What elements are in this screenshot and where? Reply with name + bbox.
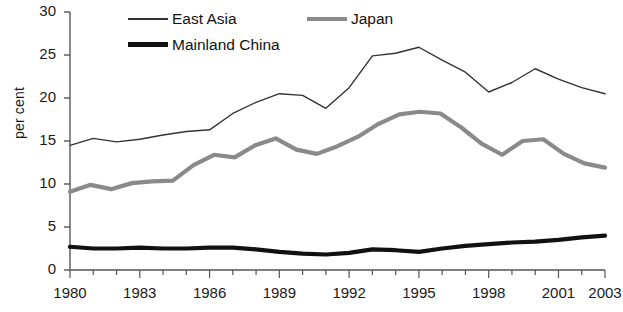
x-tick-label: 1983 <box>123 284 156 301</box>
x-tick-label: 2001 <box>542 284 575 301</box>
chart-series <box>70 47 605 254</box>
x-tick-label: 1992 <box>332 284 365 301</box>
series-line-0 <box>70 47 605 145</box>
legend-label-japan: Japan <box>351 11 393 27</box>
y-tick-label: 0 <box>22 260 56 277</box>
x-tick-label: 1998 <box>472 284 505 301</box>
legend-label-mainland-china: Mainland China <box>172 37 280 53</box>
series-line-2 <box>70 236 605 255</box>
chart-figure: per cent 302520151050 198019831986198919… <box>0 0 623 312</box>
legend-label-east-asia: East Asia <box>172 11 237 27</box>
legend-item-mainland-china: Mainland China <box>128 37 280 53</box>
y-tick-label: 25 <box>22 45 56 62</box>
x-tick-label: 1980 <box>53 284 86 301</box>
y-tick-label: 20 <box>22 88 56 105</box>
y-tick-label: 15 <box>22 131 56 148</box>
legend-item-east-asia: East Asia <box>128 11 237 27</box>
y-tick-label: 10 <box>22 174 56 191</box>
legend-swatch-japan <box>307 17 347 22</box>
y-tick-label: 5 <box>22 217 56 234</box>
x-tick-label: 2003 <box>588 284 621 301</box>
x-tick-label: 1989 <box>263 284 296 301</box>
line-chart-plot <box>0 0 623 312</box>
y-tick-label: 30 <box>22 2 56 19</box>
x-tick-label: 1986 <box>193 284 226 301</box>
legend-swatch-east-asia <box>128 18 168 20</box>
series-line-1 <box>70 112 605 192</box>
x-tick-label: 1995 <box>402 284 435 301</box>
legend-swatch-mainland-china <box>128 42 168 47</box>
legend-item-japan: Japan <box>307 11 393 27</box>
